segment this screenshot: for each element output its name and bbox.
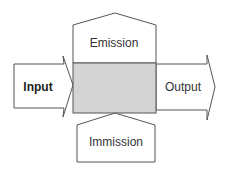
process-box bbox=[73, 63, 156, 113]
input-label: Input bbox=[23, 80, 52, 94]
immission-label: Immission bbox=[89, 135, 143, 149]
input-output-diagram: Emission Input Output Immission bbox=[0, 0, 225, 172]
emission-label: Emission bbox=[90, 36, 139, 50]
output-label: Output bbox=[165, 80, 202, 94]
